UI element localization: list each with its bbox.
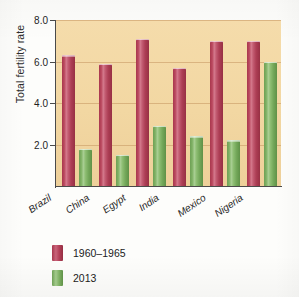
bar-group-china [97, 20, 131, 186]
x-label-india: India [137, 192, 161, 213]
bar-egypt-1960-1965[interactable] [136, 39, 149, 186]
bar-group-nigeria [245, 20, 279, 186]
bar-highlight [153, 126, 166, 128]
bar-highlight [264, 62, 277, 64]
y-tick-label-4: 4.0 [22, 98, 48, 109]
x-label-egypt: Egypt [100, 192, 127, 215]
bar-group-brazil [60, 20, 94, 186]
bar-brazil-2013[interactable] [79, 149, 92, 186]
bar-highlight [190, 136, 203, 138]
legend-swatch-red-icon [52, 245, 63, 261]
bar-mexico-2013[interactable] [227, 140, 240, 186]
legend-label-1960-1965: 1960–1965 [73, 247, 126, 259]
legend-swatch-green-icon [52, 270, 63, 286]
bar-group-egypt [134, 20, 168, 186]
bar-nigeria-2013[interactable] [264, 62, 277, 187]
bar-highlight [79, 149, 92, 151]
y-tick-label-2: 2.0 [22, 139, 48, 150]
bar-highlight [173, 68, 186, 70]
x-label-nigeria: Nigeria [212, 192, 244, 219]
x-label-mexico: Mexico [175, 192, 207, 219]
plot-area [56, 20, 281, 186]
bar-mexico-1960-1965[interactable] [210, 41, 223, 186]
bar-highlight [99, 64, 112, 66]
bar-egypt-2013[interactable] [153, 126, 166, 186]
bar-india-1960-1965[interactable] [173, 68, 186, 186]
bar-group-mexico [208, 20, 242, 186]
x-label-china: China [63, 192, 91, 216]
bar-highlight [210, 41, 223, 43]
legend-label-2013: 2013 [73, 272, 96, 284]
legend-item-2013[interactable]: 2013 [52, 268, 212, 288]
bar-nigeria-1960-1965[interactable] [247, 41, 260, 186]
y-tick-label-8: 8.0 [22, 15, 48, 26]
bar-group-india [171, 20, 205, 186]
y-axis-tick-labels: 8.0 6.0 4.0 2.0 [18, 0, 48, 297]
bar-highlight [247, 41, 260, 43]
bar-highlight [136, 39, 149, 41]
legend-item-1960-1965[interactable]: 1960–1965 [52, 243, 212, 263]
bar-india-2013[interactable] [190, 136, 203, 186]
chart-legend: 1960–1965 2013 [52, 243, 212, 293]
fertility-rate-bar-chart: Total fertility rate 8.0 6.0 4.0 2.0 [0, 0, 299, 297]
bar-highlight [62, 55, 75, 57]
bar-brazil-1960-1965[interactable] [62, 55, 75, 186]
y-tick-label-6: 6.0 [22, 56, 48, 67]
x-axis-category-labels: Brazil China Egypt India Mexico Nigeria [0, 188, 299, 228]
bar-china-1960-1965[interactable] [99, 64, 112, 187]
bar-china-2013[interactable] [116, 155, 129, 186]
y-axis-line [55, 20, 56, 188]
x-label-brazil: Brazil [26, 192, 53, 215]
bar-highlight [116, 155, 129, 157]
bar-highlight [227, 140, 240, 142]
